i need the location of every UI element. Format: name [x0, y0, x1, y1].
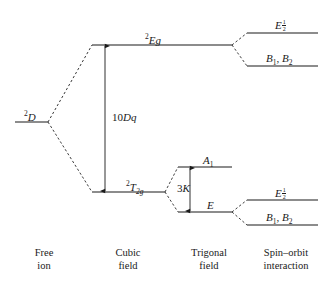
caption-line-2: interaction	[264, 259, 309, 272]
caption-line-1: Free	[35, 246, 54, 259]
connector-line-group	[48, 33, 247, 225]
fraction-numerator: 1	[282, 19, 286, 26]
level-label-spinorbit-upper-Ehalf: E12	[275, 19, 286, 32]
level-label-free-ion-2D: 2D	[24, 110, 36, 123]
diagram-canvas	[0, 0, 330, 286]
measure-label-ten-dq: 10Dq	[112, 112, 136, 123]
measure-italic-part: Dq	[123, 111, 136, 123]
term-letter: E	[275, 187, 282, 199]
measure-roman-part: 10	[112, 111, 123, 123]
column-caption-cubic-field: Cubic field	[115, 246, 140, 272]
caption-line-1: Cubic	[115, 246, 140, 259]
term-letter: B	[266, 211, 273, 223]
fraction-numerator: 1	[282, 187, 286, 194]
column-caption-spin-orbit: Spin–orbit interaction	[264, 246, 309, 272]
level-label-trigonal-A1: A1	[203, 155, 213, 169]
measure-label-three-k: 3K	[177, 183, 190, 194]
connector-line-E-to-Ehalf	[232, 200, 247, 212]
term-letter-2: B	[282, 52, 289, 64]
column-caption-free-ion: Free ion	[35, 246, 54, 272]
connector-line-2Eg-to-Ehalf	[232, 33, 247, 45]
level-label-spinorbit-lower-Ehalf: E12	[275, 187, 286, 200]
connector-line-E-to-B1B2	[232, 212, 247, 225]
caption-line-1: Trigonal	[191, 246, 227, 259]
term-italic-tail: g	[155, 34, 161, 46]
term-subscript: 2g	[136, 187, 144, 196]
connector-line-2D-to-2T2g	[48, 122, 92, 192]
term-subscript: 1	[210, 160, 214, 169]
term-letter: A	[203, 154, 210, 166]
connector-line-2D-to-2Eg	[48, 45, 92, 122]
fraction-denominator: 2	[282, 194, 286, 200]
level-label-spinorbit-lower-B1B2: B1, B2	[266, 212, 292, 226]
level-label-spinorbit-upper-B1B2: B1, B2	[266, 53, 292, 67]
fraction-denominator: 2	[282, 26, 286, 32]
connector-line-2Eg-to-B1B2	[232, 45, 247, 66]
term-letter: B	[266, 52, 273, 64]
level-label-trigonal-E: E	[207, 200, 214, 211]
caption-line-1: Spin–orbit	[264, 246, 309, 259]
connector-line-2T2g-to-E	[165, 192, 178, 212]
term-letter: E	[207, 199, 214, 211]
term-subscript-2: 2	[289, 217, 293, 226]
term-letter-2: B	[282, 211, 289, 223]
caption-line-2: field	[191, 259, 227, 272]
energy-level-diagram: 2D 2Eg 2T2g A1 E E12 B1, B2 E12 B1, B2 1…	[0, 0, 330, 286]
term-letter: E	[275, 19, 282, 31]
column-caption-trigonal-field: Trigonal field	[191, 246, 227, 272]
measure-italic-part: K	[183, 182, 190, 194]
level-label-cubic-2T2g: 2T2g	[126, 180, 143, 195]
half-fraction-subscript: 12	[282, 187, 286, 200]
level-label-cubic-2Eg: 2Eg	[145, 33, 161, 46]
term-subscript-2: 2	[289, 58, 293, 67]
term-letter: D	[28, 111, 36, 123]
caption-line-2: ion	[35, 259, 54, 272]
caption-line-2: field	[115, 259, 140, 272]
half-fraction-subscript: 12	[282, 19, 286, 32]
